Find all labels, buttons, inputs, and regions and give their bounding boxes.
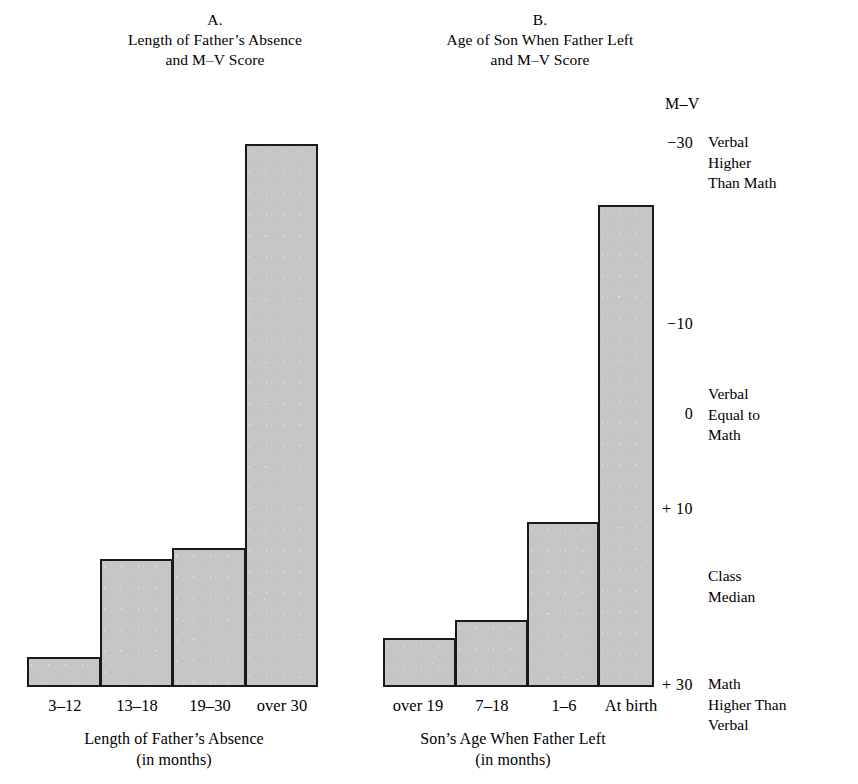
- x-axis-title-line2: (in months): [0, 750, 348, 771]
- cat-label-b-4: At birth: [588, 696, 674, 716]
- panel-b-x-axis-title: Son’s Age When Father Left (in months): [372, 729, 654, 771]
- panel-b-category-labels: over 19 7–18 1–6 At birth: [0, 0, 858, 784]
- x-axis-title-line2: (in months): [372, 750, 654, 771]
- x-axis-title-line1: Son’s Age When Father Left: [372, 729, 654, 750]
- x-axis-title-line1: Length of Father’s Absence: [0, 729, 348, 750]
- panel-a-x-axis-title: Length of Father’s Absence (in months): [0, 729, 348, 771]
- figure-root: A. Length of Father’s Absence and M–V Sc…: [0, 0, 858, 784]
